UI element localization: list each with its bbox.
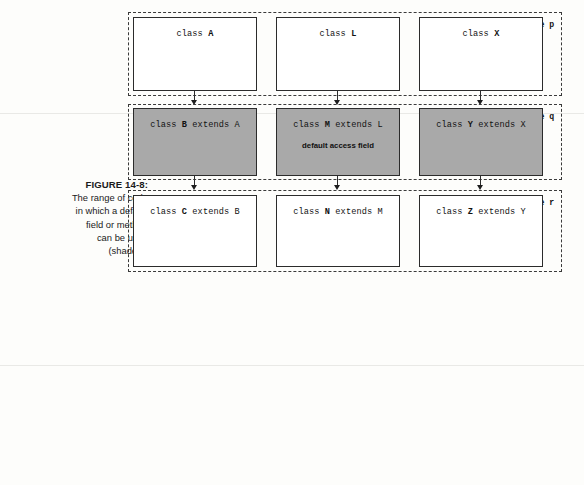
class-box-Y-title: class Y extends X — [436, 120, 525, 132]
class-box-C: class C extends B — [133, 195, 257, 267]
figure-14-8-diagram: package p class A class L class X packag… — [128, 12, 562, 274]
class-box-L-title: class L — [320, 29, 357, 41]
class-box-M-note: default access field — [302, 141, 374, 150]
arrow-A-to-B — [190, 91, 199, 105]
figure-14-8-caption-line-1: The range of code — [8, 191, 148, 204]
class-box-A: class A — [133, 17, 257, 91]
class-box-Z: class Z extends Y — [419, 195, 543, 267]
arrow-L-to-M — [333, 91, 342, 105]
arrow-M-to-N — [333, 176, 342, 190]
figure-14-8-caption: FIGURE 14-8: The range of code in which … — [8, 178, 148, 257]
arrow-B-to-C — [190, 176, 199, 190]
class-box-Z-title: class Z extends Y — [436, 207, 525, 219]
figure-14-8: FIGURE 14-8: The range of code in which … — [0, 0, 584, 282]
class-box-N-title: class N extends M — [293, 207, 382, 219]
class-box-X-title: class X — [463, 29, 500, 41]
class-box-M: class M extends L default access field — [276, 108, 400, 176]
figure-14-9: FIGURE 14-9: The range of code in which … — [0, 288, 584, 485]
class-box-C-title: class C extends B — [150, 207, 239, 219]
arrow-Y-to-Z — [476, 176, 485, 190]
class-box-X: class X — [419, 17, 543, 91]
class-box-M-title: class M extends L — [293, 120, 382, 132]
class-box-Y: class Y extends X — [419, 108, 543, 176]
figure-14-8-caption-line-3: field or method — [8, 218, 148, 231]
class-box-B: class B extends A — [133, 108, 257, 176]
class-box-A-title: class A — [177, 29, 214, 41]
figure-14-8-caption-line-4: can be used — [8, 231, 148, 244]
class-box-B-title: class B extends A — [150, 120, 239, 132]
figure-14-8-caption-line-2: in which a default — [8, 204, 148, 217]
figure-14-8-caption-line-5: (shaded). — [8, 244, 148, 257]
figure-14-8-label: FIGURE 14-8: — [8, 178, 148, 191]
class-box-N: class N extends M — [276, 195, 400, 267]
arrow-X-to-Y — [476, 91, 485, 105]
class-box-L: class L — [276, 17, 400, 91]
